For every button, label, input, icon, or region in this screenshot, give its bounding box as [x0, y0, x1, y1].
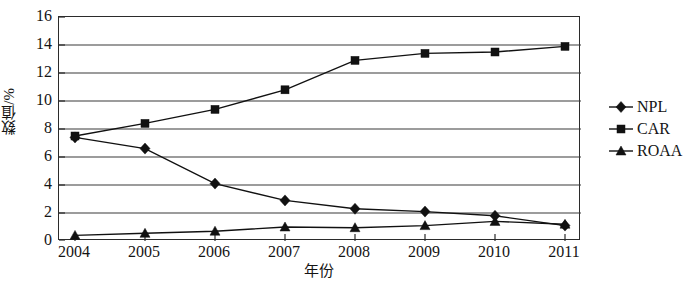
x-tick-label: 2007: [254, 244, 314, 260]
data-point: [561, 42, 569, 50]
data-point: [141, 119, 149, 127]
x-axis-title: 年份: [58, 264, 580, 279]
chart-canvas: [59, 17, 581, 241]
series-car: [71, 42, 569, 140]
x-tick-label: 2006: [184, 244, 244, 260]
x-tick-label: 2009: [394, 244, 454, 260]
data-point: [420, 206, 430, 217]
y-tick-label: 16: [26, 8, 52, 24]
y-tick-label: 14: [26, 36, 52, 52]
chart-figure: 数值/% 0246810121416 200420052006200720082…: [0, 0, 696, 285]
y-axis-title: 数值/%: [2, 88, 22, 135]
x-tick-label: 2008: [324, 244, 384, 260]
plot-area: [58, 16, 580, 240]
x-tick-label: 2004: [44, 244, 104, 260]
y-axis-tick-labels: 0246810121416: [22, 0, 52, 285]
x-tick-label: 2011: [534, 244, 594, 260]
legend-label: NPL: [637, 99, 667, 115]
legend-marker-triangle-icon: [608, 144, 634, 158]
data-point: [71, 132, 79, 140]
y-tick-label: 10: [26, 92, 52, 108]
chart-legend: NPLCARROAA: [608, 96, 696, 162]
data-point: [211, 105, 219, 113]
y-tick-label: 2: [26, 204, 52, 220]
series-line: [75, 137, 565, 225]
data-point: [140, 143, 150, 154]
x-tick-label: 2005: [114, 244, 174, 260]
legend-marker-diamond-icon: [608, 100, 634, 114]
y-tick-label: 12: [26, 64, 52, 80]
legend-label: CAR: [637, 121, 670, 137]
data-point: [421, 49, 429, 57]
legend-item-npl[interactable]: NPL: [608, 96, 696, 118]
data-point: [280, 195, 290, 206]
data-point: [491, 48, 499, 56]
legend-label: ROAA: [637, 143, 682, 159]
data-point: [281, 86, 289, 94]
data-point: [210, 178, 220, 189]
legend-item-car[interactable]: CAR: [608, 118, 696, 140]
x-tick-label: 2010: [464, 244, 524, 260]
legend-marker-square-icon: [608, 122, 634, 136]
y-tick-label: 6: [26, 148, 52, 164]
y-tick-label: 8: [26, 120, 52, 136]
data-point: [351, 56, 359, 64]
y-tick-label: 4: [26, 176, 52, 192]
legend-item-roaa[interactable]: ROAA: [608, 140, 696, 162]
